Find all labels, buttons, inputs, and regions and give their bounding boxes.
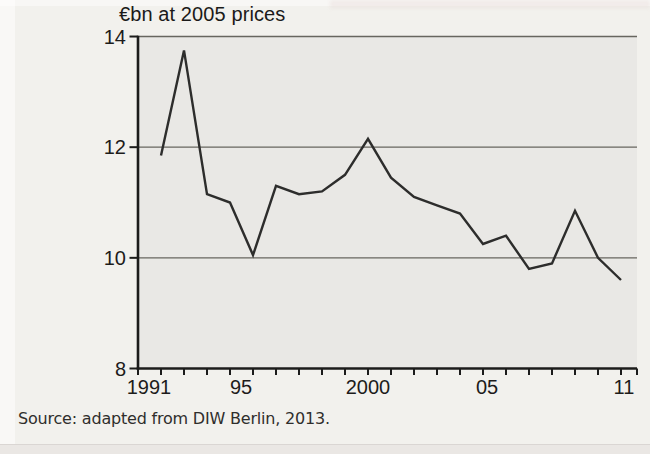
line-chart: 810121419919520000511 bbox=[0, 0, 650, 405]
scanned-chart-page: €bn at 2005 prices 810121419919520000511… bbox=[0, 0, 650, 454]
y-tick-label-12: 12 bbox=[104, 136, 126, 158]
y-tick-label-8: 8 bbox=[115, 358, 126, 380]
y-tick-label-10: 10 bbox=[104, 247, 126, 269]
plot-area bbox=[138, 37, 637, 369]
x-tick-label-11: 11 bbox=[614, 376, 635, 398]
x-tick-label-95: 95 bbox=[230, 376, 252, 398]
x-tick-label-05: 05 bbox=[476, 376, 498, 398]
x-tick-label-1991: 1991 bbox=[127, 376, 172, 398]
source-note: Source: adapted from DIW Berlin, 2013. bbox=[18, 409, 330, 429]
x-tick-label-2000: 2000 bbox=[346, 376, 391, 398]
scan-artifact-bottom-band bbox=[0, 444, 650, 454]
y-tick-label-14: 14 bbox=[104, 26, 126, 48]
